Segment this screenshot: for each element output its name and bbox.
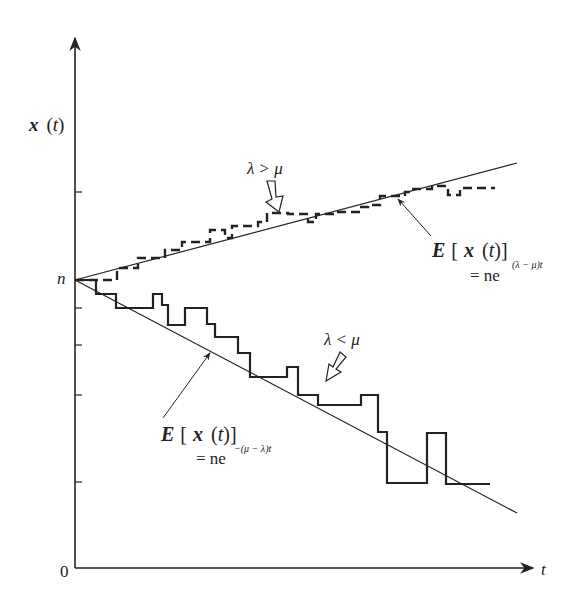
expectation-label-growth: E[x(t)] = ne (λ − μ)t	[431, 239, 543, 285]
hollow-arrow-icon	[266, 181, 283, 212]
origin-label: 0	[60, 562, 69, 581]
condition-decay-label: λ < μ	[323, 330, 360, 349]
birth-death-process-diagram: x(t) t 0 n λ > μ λ < μ E[x(t)] = ne (λ −…	[0, 0, 578, 615]
y-axis-label: x(t)	[28, 114, 64, 136]
condition-growth: λ > μ	[246, 159, 283, 212]
axes	[75, 38, 533, 568]
exponent-growth: (λ − μ)t	[512, 259, 543, 271]
x-axis-label: t	[541, 560, 547, 579]
annotation-pointer-decay	[163, 353, 210, 418]
svg-text:= ne: = ne	[470, 266, 500, 285]
y-axis-ticks	[75, 192, 82, 482]
sample-path-decay	[75, 280, 490, 484]
start-value-label: n	[57, 269, 66, 288]
expectation-label-decay: E[x(t)] = ne −(μ − λ)t	[160, 423, 272, 468]
hollow-arrow-icon	[326, 352, 346, 381]
exponent-decay: −(μ − λ)t	[234, 443, 272, 455]
sample-path-growth	[75, 186, 495, 280]
expectation-line-growth	[75, 163, 517, 280]
condition-growth-label: λ > μ	[246, 159, 283, 178]
svg-text:E[x(t)]: E[x(t)]	[160, 423, 237, 446]
condition-decay: λ < μ	[323, 330, 360, 381]
annotation-pointer-growth	[398, 199, 431, 236]
svg-text:E[x(t)]: E[x(t)]	[431, 239, 508, 262]
expectation-line-decay	[75, 280, 517, 513]
svg-text:= ne: = ne	[196, 449, 226, 468]
